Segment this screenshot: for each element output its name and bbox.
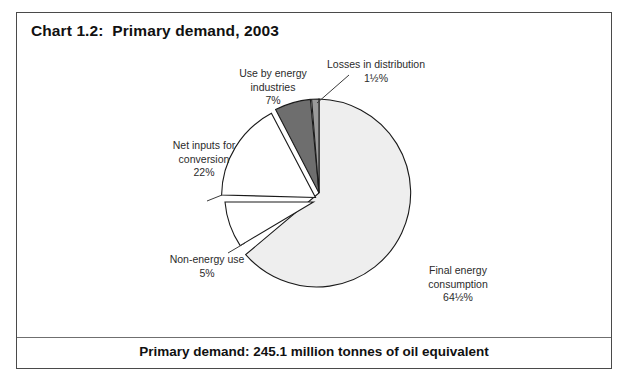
pie-label-value: 1½%: [311, 72, 441, 86]
pie-label-non-energy-use: Non-energy use 5%: [148, 253, 266, 280]
pie-label-value: 5%: [148, 267, 266, 281]
pie-label-net-inputs-for-conversion: Net inputs for conversion 22%: [149, 139, 259, 180]
pie-label-line-2: conversion: [149, 153, 259, 167]
pie-label-value: 22%: [149, 166, 259, 180]
leader-line-net-inputs: [207, 195, 222, 201]
pie-label-value: 64½%: [398, 291, 518, 305]
chart-footer-total: Primary demand: 245.1 million tonnes of …: [17, 344, 611, 359]
pie-chart: Use by energy industries 7% Losses in di…: [17, 13, 611, 368]
pie-label-losses-in-distribution: Losses in distribution 1½%: [311, 58, 441, 85]
footer-divider: [17, 337, 611, 338]
pie-label-line-1: Non-energy use: [148, 253, 266, 267]
pie-label-final-energy-consumption: Final energy consumption 64½%: [398, 264, 518, 305]
leader-line-non-energy-use: [228, 243, 245, 253]
pie-label-line-1: Losses in distribution: [311, 58, 441, 72]
chart-frame: Chart 1.2: Primary demand, 2003 Use by e…: [16, 12, 612, 369]
pie-label-line-2: consumption: [398, 278, 518, 292]
pie-label-value: 7%: [213, 94, 333, 108]
pie-label-line-1: Net inputs for: [149, 139, 259, 153]
pie-label-line-1: Final energy: [398, 264, 518, 278]
